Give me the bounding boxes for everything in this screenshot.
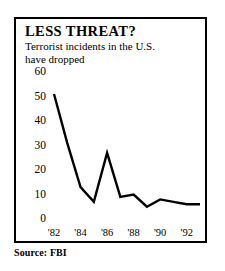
y-tick-label: 30 (24, 140, 46, 152)
line-chart-svg (16, 19, 204, 240)
x-tick-label: '92 (174, 227, 200, 238)
x-tick-label: '88 (121, 227, 147, 238)
plot-area: 6050403020100 '82'84'86'88'90'92 (16, 19, 205, 241)
x-tick-label: '90 (147, 227, 173, 238)
y-tick-label: 60 (24, 66, 46, 78)
chart-frame: LESS THREAT? Terrorist incidents in the … (14, 17, 207, 243)
y-tick-label: 40 (24, 115, 46, 127)
x-tick-label: '84 (68, 227, 94, 238)
chart-figure: LESS THREAT? Terrorist incidents in the … (0, 0, 225, 271)
y-tick-label: 20 (24, 164, 46, 176)
y-tick-label: 10 (24, 189, 46, 201)
x-tick-label: '82 (41, 227, 67, 238)
y-tick-label: 0 (24, 213, 46, 225)
x-tick-label: '86 (94, 227, 120, 238)
y-tick-label: 50 (24, 91, 46, 103)
source-note: Source: FBI (14, 247, 67, 258)
data-series-line (54, 94, 200, 207)
